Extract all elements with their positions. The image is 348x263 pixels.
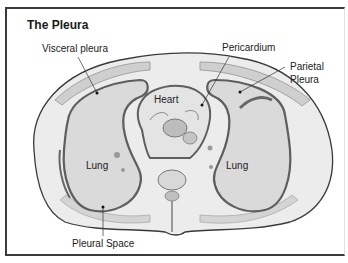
vessel-dot	[209, 165, 213, 169]
vertebral-body	[158, 170, 186, 190]
label-lung-right: Lung	[226, 160, 248, 172]
aorta	[163, 119, 187, 137]
label-heart: Heart	[154, 94, 178, 106]
great-vessel	[183, 132, 197, 144]
vessel-dot	[114, 152, 120, 158]
label-pericardium: Pericardium	[222, 42, 275, 54]
diagram-title: The Pleura	[27, 18, 88, 32]
vessel-dot	[121, 168, 125, 172]
label-pleural-space: Pleural Space	[72, 238, 134, 250]
spinal-canal	[165, 191, 179, 201]
vessel-dot	[208, 146, 213, 151]
thorax-cross-section	[0, 0, 348, 263]
label-lung-left: Lung	[86, 160, 108, 172]
label-parietal-line2: Pleura	[290, 74, 319, 86]
label-parietal-line1: Parietal	[290, 61, 324, 73]
label-visceral-pleura: Visceral pleura	[42, 43, 108, 55]
